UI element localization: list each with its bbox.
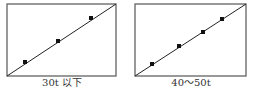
panel-right-point bbox=[220, 17, 224, 21]
panel-right-caption: 40～50t bbox=[136, 77, 246, 89]
panel-left-point bbox=[23, 60, 27, 64]
panel-left-point bbox=[56, 39, 60, 43]
panel-left bbox=[7, 4, 116, 76]
panel-left-trendline bbox=[7, 4, 116, 76]
panel-right-point bbox=[150, 62, 154, 66]
panel-left-point bbox=[89, 16, 93, 20]
panel-left-caption: 30t 以下 bbox=[7, 77, 117, 89]
panel-right-point bbox=[201, 30, 205, 34]
panel-right-point bbox=[177, 44, 181, 48]
panel-right bbox=[135, 4, 246, 76]
